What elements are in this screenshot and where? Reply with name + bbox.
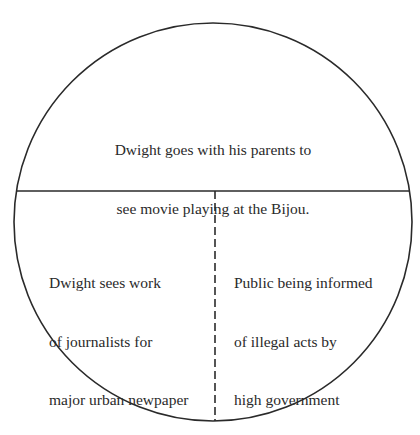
text-line: Public being informed bbox=[234, 273, 373, 293]
text-line: see movie playing at the Bijou. bbox=[0, 199, 420, 219]
text-line: Dwight goes with his parents to bbox=[0, 140, 420, 160]
top-section-text: Dwight goes with his parents to see movi… bbox=[0, 101, 420, 238]
text-line: Dwight sees work bbox=[49, 273, 188, 293]
text-line: major urban newpaper bbox=[49, 390, 188, 410]
bottom-left-section-text: Dwight sees work of journalists for majo… bbox=[49, 234, 188, 435]
bottom-right-section-text: Public being informed of illegal acts by… bbox=[234, 234, 373, 435]
text-line: of journalists for bbox=[49, 332, 188, 352]
text-line: high government bbox=[234, 390, 373, 410]
text-line: of illegal acts by bbox=[234, 332, 373, 352]
